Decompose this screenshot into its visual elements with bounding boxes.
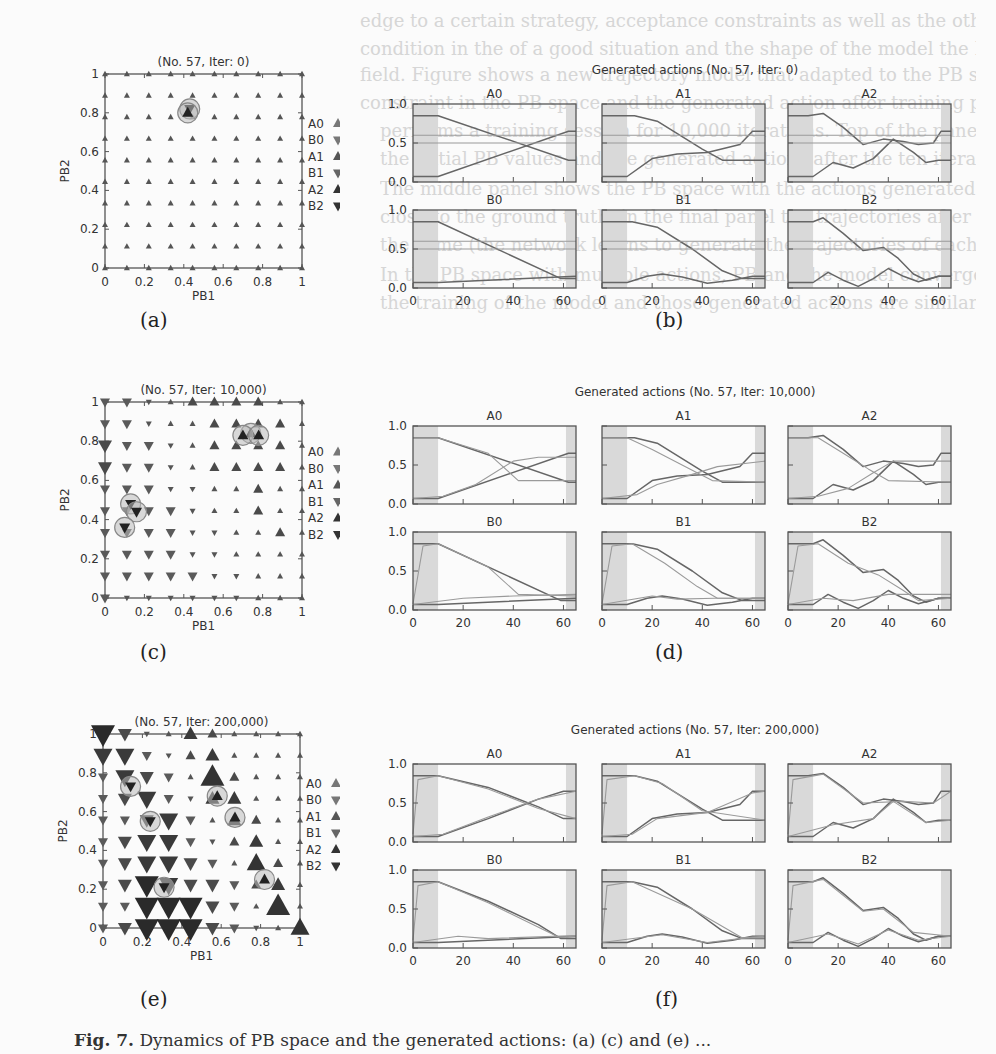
subplot-title: B1 bbox=[676, 193, 692, 207]
marker-up-triangle bbox=[299, 157, 305, 162]
x-tick-label: 0.6 bbox=[214, 275, 233, 289]
marker-down-triangle bbox=[144, 464, 154, 473]
y-tick-label: 0.5 bbox=[388, 902, 407, 916]
x-tick-label: 0 bbox=[409, 616, 417, 630]
marker-down-triangle bbox=[144, 486, 154, 495]
y-tick-label: 1.0 bbox=[388, 203, 407, 217]
pb-space-plot-iter-10000: (No. 57, Iter: 10,000)00.20.40.60.8100.2… bbox=[0, 370, 340, 640]
legend-marker-icon bbox=[331, 796, 340, 805]
marker-up-triangle bbox=[233, 92, 239, 97]
marker-down-triangle bbox=[144, 573, 154, 582]
marker-up-triangle bbox=[277, 135, 283, 140]
marker-up-triangle bbox=[168, 243, 174, 248]
marker-up-triangle bbox=[297, 774, 303, 779]
marker-up-triangle bbox=[277, 200, 283, 205]
generated-actions-plot-iter-200000: Generated actions (No. 57, Iter: 200,000… bbox=[340, 700, 996, 990]
marker-up-triangle bbox=[277, 222, 283, 227]
marker-up-triangle bbox=[188, 774, 194, 779]
marker-down-triangle bbox=[205, 880, 219, 893]
x-tick-label: 0.2 bbox=[135, 605, 154, 619]
marker-up-triangle bbox=[102, 243, 108, 248]
marker-up-triangle bbox=[297, 903, 303, 908]
actions-title: Generated actions (No. 57, Iter: 0) bbox=[592, 63, 798, 77]
marker-up-triangle bbox=[253, 484, 263, 493]
marker-down-triangle bbox=[144, 551, 154, 560]
marker-up-triangle bbox=[102, 222, 108, 227]
y-tick-label: 1.0 bbox=[388, 757, 407, 771]
subfigure-label-f: (f) bbox=[655, 987, 678, 1011]
x-tick-label: 1 bbox=[296, 935, 304, 949]
legend-marker-icon bbox=[333, 465, 340, 474]
marker-up-triangle bbox=[190, 135, 196, 140]
x-tick-label: 20 bbox=[456, 294, 471, 308]
subplot-b2: B20204060 bbox=[784, 193, 951, 308]
x-tick-label: 60 bbox=[745, 294, 760, 308]
marker-down-triangle bbox=[190, 487, 196, 492]
marker-up-triangle bbox=[275, 817, 281, 822]
marker-up-triangle bbox=[231, 752, 237, 757]
legend-label: B2 bbox=[308, 528, 324, 542]
subplot-title: A1 bbox=[676, 747, 692, 761]
marker-up-triangle bbox=[211, 114, 217, 119]
x-tick-label: 0.4 bbox=[174, 275, 193, 289]
y-tick-label: 0.0 bbox=[388, 497, 407, 511]
y-tick-label: 0.0 bbox=[388, 175, 407, 189]
marker-up-triangle bbox=[205, 748, 219, 761]
x-tick-label: 0.4 bbox=[174, 605, 193, 619]
subplot-title: B1 bbox=[676, 515, 692, 529]
x-tick-label: 40 bbox=[881, 294, 896, 308]
marker-down-triangle bbox=[166, 529, 176, 538]
x-tick-label: 0.6 bbox=[212, 935, 231, 949]
marker-up-triangle bbox=[146, 243, 152, 248]
marker-up-triangle bbox=[190, 92, 196, 97]
x-axis-label: PB1 bbox=[192, 619, 215, 633]
marker-up-triangle bbox=[146, 157, 152, 162]
x-tick-label: 60 bbox=[931, 294, 946, 308]
marker-up-triangle bbox=[297, 817, 303, 822]
legend-marker-icon bbox=[333, 184, 340, 193]
shaded-region bbox=[755, 426, 765, 504]
marker-down-triangle bbox=[118, 880, 132, 893]
legend-marker-icon bbox=[331, 862, 340, 871]
actions-title: Generated actions (No. 57, Iter: 10,000) bbox=[575, 385, 816, 399]
marker-down-triangle bbox=[233, 574, 239, 579]
marker-up-triangle bbox=[102, 157, 108, 162]
y-tick-label: 1.0 bbox=[388, 419, 407, 433]
subplot-a1: A1 bbox=[602, 747, 765, 842]
marker-down-triangle bbox=[188, 573, 198, 582]
subplot-a2: A2 bbox=[788, 409, 951, 504]
legend-label: A1 bbox=[308, 478, 324, 492]
marker-up-triangle bbox=[275, 795, 281, 800]
panel-b: Generated actions (No. 57, Iter: 0)A00.0… bbox=[340, 0, 996, 334]
marker-up-triangle bbox=[168, 222, 174, 227]
y-axis-label: PB2 bbox=[58, 159, 72, 182]
subplot-title: A0 bbox=[487, 87, 503, 101]
marker-up-triangle bbox=[255, 114, 261, 119]
y-tick-label: 1 bbox=[91, 395, 99, 409]
legend-label: A0 bbox=[308, 445, 324, 459]
marker-down-triangle bbox=[94, 749, 113, 766]
marker-up-triangle bbox=[277, 508, 283, 513]
x-tick-label: 40 bbox=[695, 616, 710, 630]
x-tick-label: 60 bbox=[745, 616, 760, 630]
subfigure-label-c: (c) bbox=[140, 640, 167, 664]
subplot-b2: B20204060 bbox=[784, 853, 951, 968]
subplot-title: B2 bbox=[862, 193, 878, 207]
marker-up-triangle bbox=[211, 486, 217, 491]
marker-down-triangle bbox=[100, 398, 110, 407]
marker-up-triangle bbox=[188, 397, 198, 406]
marker-down-triangle bbox=[98, 817, 108, 826]
x-tick-label: 20 bbox=[831, 294, 846, 308]
subplot-title: A0 bbox=[487, 747, 503, 761]
marker-down-triangle bbox=[186, 817, 196, 826]
marker-up-triangle bbox=[297, 752, 303, 757]
marker-down-triangle bbox=[166, 507, 176, 516]
x-tick-label: 0 bbox=[101, 605, 109, 619]
marker-up-triangle bbox=[233, 529, 239, 534]
y-tick-label: 0.0 bbox=[388, 835, 407, 849]
marker-up-triangle bbox=[211, 157, 217, 162]
marker-up-triangle bbox=[291, 918, 310, 935]
marker-up-triangle bbox=[233, 222, 239, 227]
marker-up-triangle bbox=[299, 114, 305, 119]
subfigure-label-a: (a) bbox=[140, 308, 168, 332]
